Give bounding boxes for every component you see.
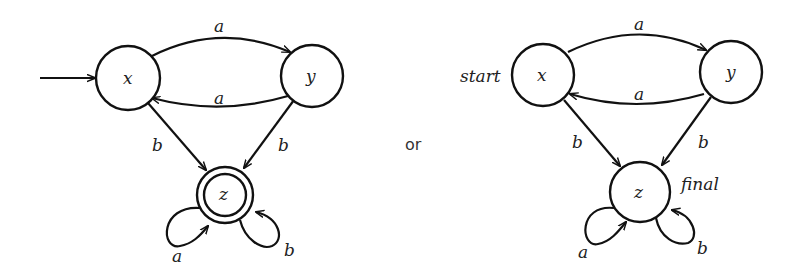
state-x-label: x bbox=[537, 65, 547, 85]
edge-x-to-y bbox=[568, 34, 706, 52]
edge-x-to-y bbox=[152, 38, 290, 56]
edge-label-z-a: a bbox=[172, 246, 182, 266]
diagram-right: start a a b b a b x y z final bbox=[460, 14, 762, 262]
edge-y-to-z bbox=[662, 97, 711, 165]
separator-or: or bbox=[405, 135, 422, 154]
edge-y-to-z bbox=[244, 100, 294, 168]
diagram-left: a a b b a b x y z bbox=[40, 16, 343, 266]
edge-label-y-z: b bbox=[278, 135, 289, 155]
loop-z-b bbox=[656, 210, 694, 244]
edge-label-x-y: a bbox=[214, 16, 224, 36]
fsa-diagrams: a a b b a b x y z or start a a b bbox=[0, 0, 805, 271]
edge-label-z-a: a bbox=[578, 242, 588, 262]
final-label: final bbox=[679, 174, 719, 194]
loop-z-b bbox=[240, 212, 279, 247]
loop-z-a bbox=[167, 208, 208, 246]
edge-label-x-z: b bbox=[152, 135, 163, 155]
state-z-label: z bbox=[633, 182, 644, 202]
state-z-label: z bbox=[218, 184, 229, 204]
edge-label-z-b: b bbox=[284, 240, 295, 260]
edge-label-y-z: b bbox=[698, 132, 709, 152]
state-x-label: x bbox=[123, 68, 133, 88]
start-label: start bbox=[460, 66, 501, 86]
state-y-label: y bbox=[305, 66, 316, 86]
edge-label-y-x: a bbox=[214, 88, 224, 108]
edge-label-x-z: b bbox=[572, 132, 583, 152]
edge-label-y-x: a bbox=[634, 84, 644, 104]
state-y-label: y bbox=[725, 62, 736, 82]
edge-label-z-b: b bbox=[697, 238, 708, 258]
edge-label-x-y: a bbox=[634, 14, 644, 34]
